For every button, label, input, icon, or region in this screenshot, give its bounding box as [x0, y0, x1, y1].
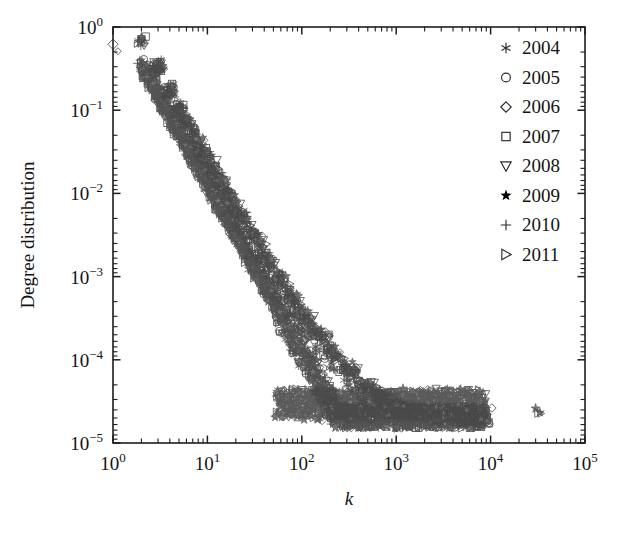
legend-label: 2009 [522, 185, 560, 206]
figure-container: 10010110210310410510010−110−210−310−410−… [0, 0, 622, 533]
degree-distribution-scatter-plot: 10010110210310410510010−110−210−310−410−… [0, 0, 622, 533]
y-axis-title-group: Degree distribution [17, 161, 38, 309]
x-axis-title-group: k [345, 488, 354, 509]
series-plateau-floor [271, 383, 490, 424]
legend-label: 2010 [522, 214, 560, 235]
legend-label: 2011 [522, 244, 559, 265]
legend-label: 2004 [522, 37, 561, 58]
legend-label: 2006 [522, 96, 560, 117]
legend-label: 2007 [522, 126, 560, 147]
x-axis-title: k [345, 488, 354, 509]
y-axis-title: Degree distribution [17, 161, 38, 309]
legend-label: 2005 [522, 67, 560, 88]
legend-label: 2008 [522, 155, 560, 176]
